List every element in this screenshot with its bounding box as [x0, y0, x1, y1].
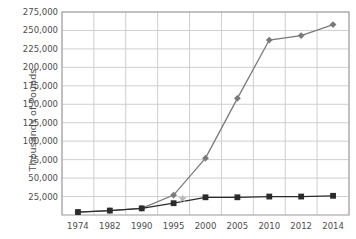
data-point-diamond — [298, 32, 305, 39]
plot-frame — [62, 12, 349, 215]
series-diamond — [75, 21, 337, 215]
data-point-square — [107, 208, 113, 214]
data-point-diamond — [330, 21, 337, 28]
data-point-square — [203, 194, 209, 200]
data-point-square — [171, 200, 177, 206]
data-point-square — [330, 193, 336, 199]
gridlines — [62, 12, 349, 215]
data-point-diamond — [234, 95, 241, 102]
data-point-square — [234, 194, 240, 200]
data-point-diamond — [266, 37, 273, 44]
data-point-square — [139, 205, 145, 211]
data-point-square — [266, 194, 272, 200]
data-point-square — [75, 209, 81, 215]
line-chart: Thousands of Pounds 275,000250,000225,00… — [0, 0, 356, 239]
plot-area — [0, 0, 356, 239]
data-point-square — [298, 194, 304, 200]
